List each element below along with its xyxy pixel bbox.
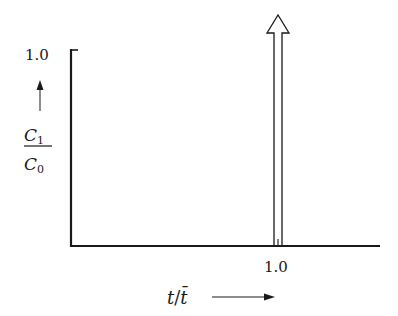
plot-canvas: 1.0 C1 C0 1.0 t/t̄ [0, 0, 398, 316]
y-tick-label: 1.0 [25, 46, 49, 64]
y-label-denominator: C0 [24, 154, 44, 176]
x-direction-arrow-icon [212, 294, 275, 301]
y-label-numerator: C1 [24, 125, 44, 147]
x-tick-label: 1.0 [264, 258, 288, 276]
x-axis-label: t/t̄ [167, 285, 188, 308]
impulse-arrow [267, 15, 289, 246]
y-direction-arrow-icon [37, 80, 44, 111]
svg-text:t/t̄: t/t̄ [167, 285, 188, 308]
y-axis-label: C1 C0 [24, 125, 52, 176]
